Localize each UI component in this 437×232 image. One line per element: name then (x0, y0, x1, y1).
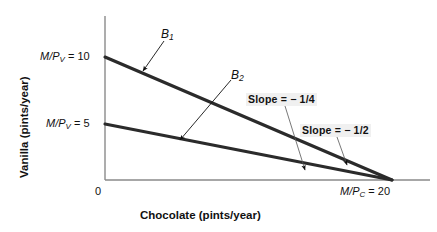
y-intercept-label-5: M/PV = 5 (46, 118, 90, 129)
y-intercept-10-subscript: V (60, 55, 65, 64)
curve-label-b2-subscript: 2 (239, 73, 244, 83)
y-intercept-label-10: M/PV = 10 (40, 51, 90, 62)
curve-label-b2-base: B (231, 68, 239, 82)
y-intercept-5-ratio: M/P (46, 117, 66, 129)
y-intercept-10-equals: = (65, 50, 78, 62)
x-axis-title: Chocolate (pints/year) (140, 210, 261, 222)
y-intercept-5-equals: = (71, 117, 84, 129)
x-intercept-label-20: M/PC = 20 (340, 186, 390, 197)
slope-callout-half: Slope = − 1/2 (300, 124, 371, 137)
y-intercept-5-value: 5 (83, 117, 89, 129)
pointer-b1 (143, 41, 164, 71)
budget-line-b1 (105, 57, 392, 180)
x-intercept-20-subscript: C (360, 190, 366, 199)
curve-label-b1: B1 (161, 28, 174, 40)
curve-label-b2: B2 (231, 69, 244, 81)
plot-canvas (0, 0, 437, 232)
curve-label-b1-base: B (161, 27, 169, 41)
x-intercept-20-equals: = (365, 185, 378, 197)
origin-label: 0 (95, 186, 101, 197)
y-intercept-5-subscript: V (66, 122, 71, 131)
y-intercept-10-value: 10 (77, 50, 89, 62)
x-intercept-20-ratio: M/P (340, 185, 360, 197)
y-axis-title: Vanilla (pints/year) (19, 76, 31, 178)
slope-callout-quarter: Slope = − 1/4 (246, 93, 317, 106)
budget-line-figure: Vanilla (pints/year) Chocolate (pints/ye… (0, 0, 437, 232)
x-intercept-20-value: 20 (378, 185, 390, 197)
y-intercept-10-ratio: M/P (40, 50, 60, 62)
pointer-b2 (180, 80, 231, 140)
curve-label-b1-subscript: 1 (169, 32, 174, 42)
pointer-slope-half (337, 137, 347, 165)
